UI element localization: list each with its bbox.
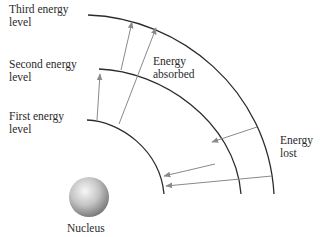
lost-arrow-3-to-1: [166, 176, 272, 186]
absorbed-arrow-1-to-3: [119, 28, 156, 124]
energy-lost-label: Energy lost: [280, 134, 313, 160]
nucleus-sphere: [69, 177, 109, 217]
energy-absorbed-label: Energy absorbed: [153, 55, 195, 81]
lost-arrow-2-to-1: [164, 164, 215, 176]
absorbed-arrow-1-to-2: [97, 74, 100, 120]
second-energy-level-arc: [99, 69, 241, 194]
third-energy-level-arc: [88, 15, 274, 194]
first-energy-level-label: First energy level: [9, 110, 64, 136]
absorbed-arrow-2-to-3: [121, 22, 132, 70]
second-energy-level-label: Second energy level: [9, 58, 77, 84]
nucleus-label: Nucleus: [67, 222, 105, 235]
third-energy-level-label: Third energy level: [9, 3, 69, 29]
